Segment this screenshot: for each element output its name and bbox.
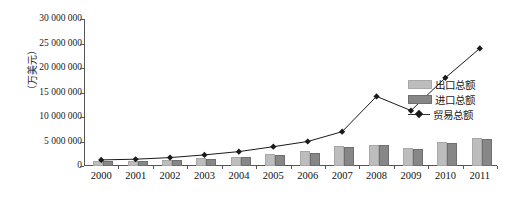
chart-legend: 出口总额 进口总额 贸易总额	[408, 78, 475, 121]
x-axis-tick-labels: 2000200120022003200420052006200720082009…	[84, 170, 497, 190]
y-tick-label: 20 000 000	[12, 63, 82, 73]
x-tick-mark	[463, 166, 464, 169]
x-tick-mark	[153, 166, 154, 169]
y-tick-label: 0	[12, 161, 82, 171]
x-tick-mark	[291, 166, 292, 169]
export-swatch-icon	[408, 80, 432, 89]
trade-total-marker	[236, 149, 242, 155]
legend-item-import: 进口总额	[408, 93, 475, 106]
legend-item-trade: 贸易总额	[408, 108, 475, 121]
legend-label-import: 进口总额	[435, 92, 475, 107]
y-tick-label: 25 000 000	[12, 39, 82, 49]
y-tick-label: 5 000 000	[12, 137, 82, 147]
y-axis-tick-labels: 05 000 00010 000 00015 000 00020 000 000…	[10, 0, 82, 212]
import-swatch-icon	[408, 95, 432, 104]
x-tick-mark	[118, 166, 119, 169]
y-tick-label: 15 000 000	[12, 88, 82, 98]
x-tick-mark	[325, 166, 326, 169]
trade-statistics-chart: （万美元） 05 000 00010 000 00015 000 00020 0…	[0, 0, 511, 212]
y-tick-label: 30 000 000	[12, 14, 82, 24]
x-tick-mark	[497, 166, 498, 169]
trade-total-marker	[133, 156, 139, 162]
x-tick-mark	[187, 166, 188, 169]
x-tick-mark	[359, 166, 360, 169]
x-tick-mark	[222, 166, 223, 169]
trade-total-marker	[270, 144, 276, 150]
trade-total-marker	[167, 155, 173, 161]
legend-label-export: 出口总额	[435, 77, 475, 92]
legend-label-trade: 贸易总额	[433, 107, 473, 122]
trade-total-marker	[201, 152, 207, 158]
trade-line-marker-icon	[408, 110, 430, 119]
y-tick-label: 10 000 000	[12, 112, 82, 122]
x-tick-label: 2011	[460, 170, 500, 181]
x-tick-mark	[256, 166, 257, 169]
legend-item-export: 出口总额	[408, 78, 475, 91]
x-tick-mark	[428, 166, 429, 169]
trade-total-marker	[98, 157, 104, 163]
x-tick-mark	[394, 166, 395, 169]
y-tick-mark	[80, 166, 84, 167]
trade-total-marker	[305, 138, 311, 144]
